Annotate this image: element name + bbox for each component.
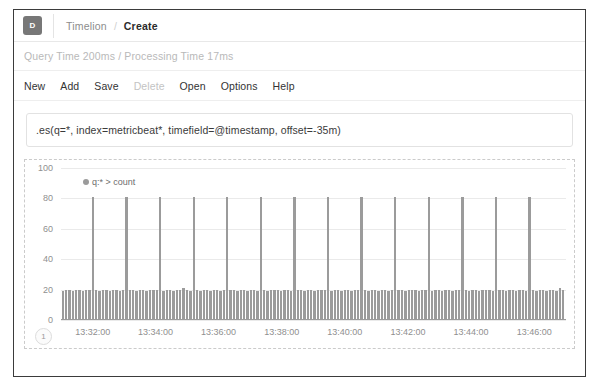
- bar: [461, 197, 463, 320]
- bar: [397, 290, 399, 320]
- bar: [293, 197, 295, 320]
- bar: [515, 291, 517, 320]
- bar: [481, 290, 483, 320]
- bar: [179, 290, 181, 320]
- app-logo-icon[interactable]: D: [23, 16, 42, 35]
- bar: [273, 290, 275, 320]
- bar: [277, 290, 279, 320]
- bar: [193, 197, 195, 320]
- menu-item-add[interactable]: Add: [60, 80, 79, 92]
- bar: [360, 197, 362, 320]
- query-timing-text: Query Time 200ms / Processing Time 17ms: [24, 50, 234, 62]
- bar: [149, 290, 151, 320]
- bar: [240, 290, 242, 320]
- bar: [488, 290, 490, 320]
- bar: [468, 291, 470, 320]
- bar: [82, 291, 84, 320]
- bar: [324, 290, 326, 320]
- x-axis-tick-label: 13:34:00: [138, 327, 173, 337]
- menu-item-open[interactable]: Open: [180, 80, 206, 92]
- bar: [525, 291, 527, 320]
- bar: [72, 291, 74, 320]
- bar: [428, 197, 430, 320]
- gridline: [61, 320, 566, 321]
- x-axis-tick-label: 13:46:00: [517, 327, 552, 337]
- bar: [502, 290, 504, 320]
- chart-legend[interactable]: q:* > count: [83, 177, 135, 187]
- bar: [401, 290, 403, 320]
- bar: [448, 290, 450, 320]
- bar: [522, 290, 524, 320]
- bar: [283, 290, 285, 320]
- bar: [508, 290, 510, 320]
- y-axis: 020406080100: [31, 168, 57, 320]
- bar: [528, 197, 530, 320]
- bar: [545, 291, 547, 320]
- bar: [263, 290, 265, 320]
- bar: [310, 290, 312, 320]
- bar: [250, 290, 252, 320]
- bar: [354, 290, 356, 320]
- bar: [357, 290, 359, 320]
- bar: [129, 290, 131, 320]
- bar: [475, 290, 477, 320]
- y-axis-tick-label: 20: [31, 285, 57, 295]
- bar: [109, 291, 111, 320]
- bar: [327, 197, 329, 320]
- bar: [431, 291, 433, 320]
- menu-item-options[interactable]: Options: [221, 80, 258, 92]
- bar: [98, 291, 100, 320]
- bar: [364, 290, 366, 320]
- bar: [122, 290, 124, 320]
- bar: [418, 291, 420, 320]
- bar: [78, 290, 80, 320]
- bar: [374, 290, 376, 320]
- y-axis-tick-label: 60: [31, 224, 57, 234]
- expression-row: [14, 101, 585, 157]
- bar: [287, 290, 289, 320]
- bar: [441, 291, 443, 320]
- bar: [334, 290, 336, 320]
- y-axis-tick-label: 80: [31, 193, 57, 203]
- bar: [562, 290, 564, 320]
- bar: [156, 290, 158, 320]
- bar: [444, 290, 446, 320]
- bar: [542, 290, 544, 320]
- bar: [119, 291, 121, 320]
- menu-item-help[interactable]: Help: [273, 80, 295, 92]
- breadcrumb-item-timelion[interactable]: Timelion: [66, 20, 107, 32]
- bar: [209, 291, 211, 320]
- plot-area[interactable]: [61, 168, 566, 320]
- bar: [62, 291, 64, 320]
- bar: [166, 290, 168, 320]
- series-count-badge[interactable]: 1: [35, 328, 52, 345]
- bar: [196, 290, 198, 320]
- menu-item-save[interactable]: Save: [94, 80, 118, 92]
- bar: [132, 290, 134, 320]
- bar: [176, 290, 178, 320]
- bar: [95, 290, 97, 320]
- nav-divider: [53, 14, 54, 38]
- bar: [105, 290, 107, 320]
- bar: [139, 290, 141, 320]
- bar: [391, 290, 393, 320]
- chart-inner: 020406080100 q:* > count 13:32:0013:34:0…: [25, 160, 574, 348]
- bar: [458, 290, 460, 320]
- bar: [162, 291, 164, 320]
- bar: [350, 291, 352, 320]
- x-axis-tick-label: 13:44:00: [454, 327, 489, 337]
- bar: [532, 290, 534, 320]
- bar: [186, 290, 188, 320]
- bar: [203, 290, 205, 320]
- y-axis-tick-label: 100: [31, 163, 57, 173]
- bar: [159, 197, 161, 320]
- timelion-expression-input[interactable]: [26, 113, 573, 147]
- bar: [421, 290, 423, 320]
- bar: [125, 197, 127, 320]
- bar: [307, 290, 309, 320]
- bar: [92, 197, 94, 320]
- menu-item-new[interactable]: New: [24, 80, 45, 92]
- bar: [266, 291, 268, 320]
- bar: [102, 290, 104, 320]
- bar: [384, 290, 386, 320]
